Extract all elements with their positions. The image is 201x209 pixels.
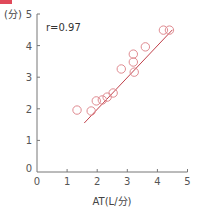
data-point-circle xyxy=(103,93,111,101)
x-tick-label: 2 xyxy=(94,176,100,187)
y-tick-label: 3 xyxy=(26,72,32,83)
y-axis-title: (分) xyxy=(4,9,22,20)
y-tick-label: 2 xyxy=(26,104,32,115)
data-point-circle xyxy=(87,107,95,115)
x-tick-label: 4 xyxy=(154,176,160,187)
data-point-circle xyxy=(130,68,138,76)
regression-line xyxy=(84,30,172,123)
data-point-circle xyxy=(141,43,149,51)
correlation-annotation: r=0.97 xyxy=(46,22,81,33)
y-tick-label: 0 xyxy=(26,163,32,174)
data-point-circle xyxy=(92,97,100,105)
y-tick-label: 4 xyxy=(26,41,32,52)
data-point-circle xyxy=(117,65,125,73)
data-point-circle xyxy=(98,96,106,104)
y-tick-label: 1 xyxy=(26,135,32,146)
x-tick-label: 0 xyxy=(34,176,40,187)
data-point-circle xyxy=(129,50,137,58)
regression-line-path xyxy=(84,30,172,123)
x-tick-label: 5 xyxy=(184,176,190,187)
y-tick-label: 5 xyxy=(26,9,32,20)
data-points xyxy=(73,26,174,115)
data-point-circle xyxy=(129,58,137,66)
scatter-chart: 012345012345 r=0.97 (分) AT(L/分) xyxy=(0,0,201,209)
x-tick-label: 1 xyxy=(64,176,70,187)
x-axis-title: AT(L/分) xyxy=(93,196,132,207)
data-point-circle xyxy=(73,106,81,114)
x-tick-label: 3 xyxy=(124,176,130,187)
